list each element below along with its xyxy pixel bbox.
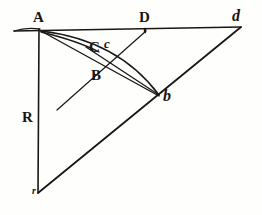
point-label-d-italic: d <box>232 8 240 24</box>
point-label-r-italic: r <box>32 186 36 196</box>
point-label-b-italic: b <box>163 88 171 104</box>
point-label-C: C <box>89 40 100 55</box>
horizontal-baseline-A-to-d <box>14 27 241 31</box>
figure-drawing-canvas <box>0 0 262 215</box>
hypotenuse-r-to-d <box>38 27 241 193</box>
point-label-R: R <box>22 110 33 125</box>
ray-R-to-D <box>57 31 146 110</box>
point-label-c-italic: c <box>104 37 110 50</box>
point-label-A: A <box>33 10 44 25</box>
point-label-B: B <box>91 68 101 83</box>
line-segment-group <box>14 27 241 193</box>
vertical-radius-A-to-r <box>38 29 39 193</box>
geometric-figure: ADdCcBRbr <box>0 0 262 215</box>
chord-A-to-b <box>41 31 159 96</box>
point-label-D: D <box>139 10 150 25</box>
